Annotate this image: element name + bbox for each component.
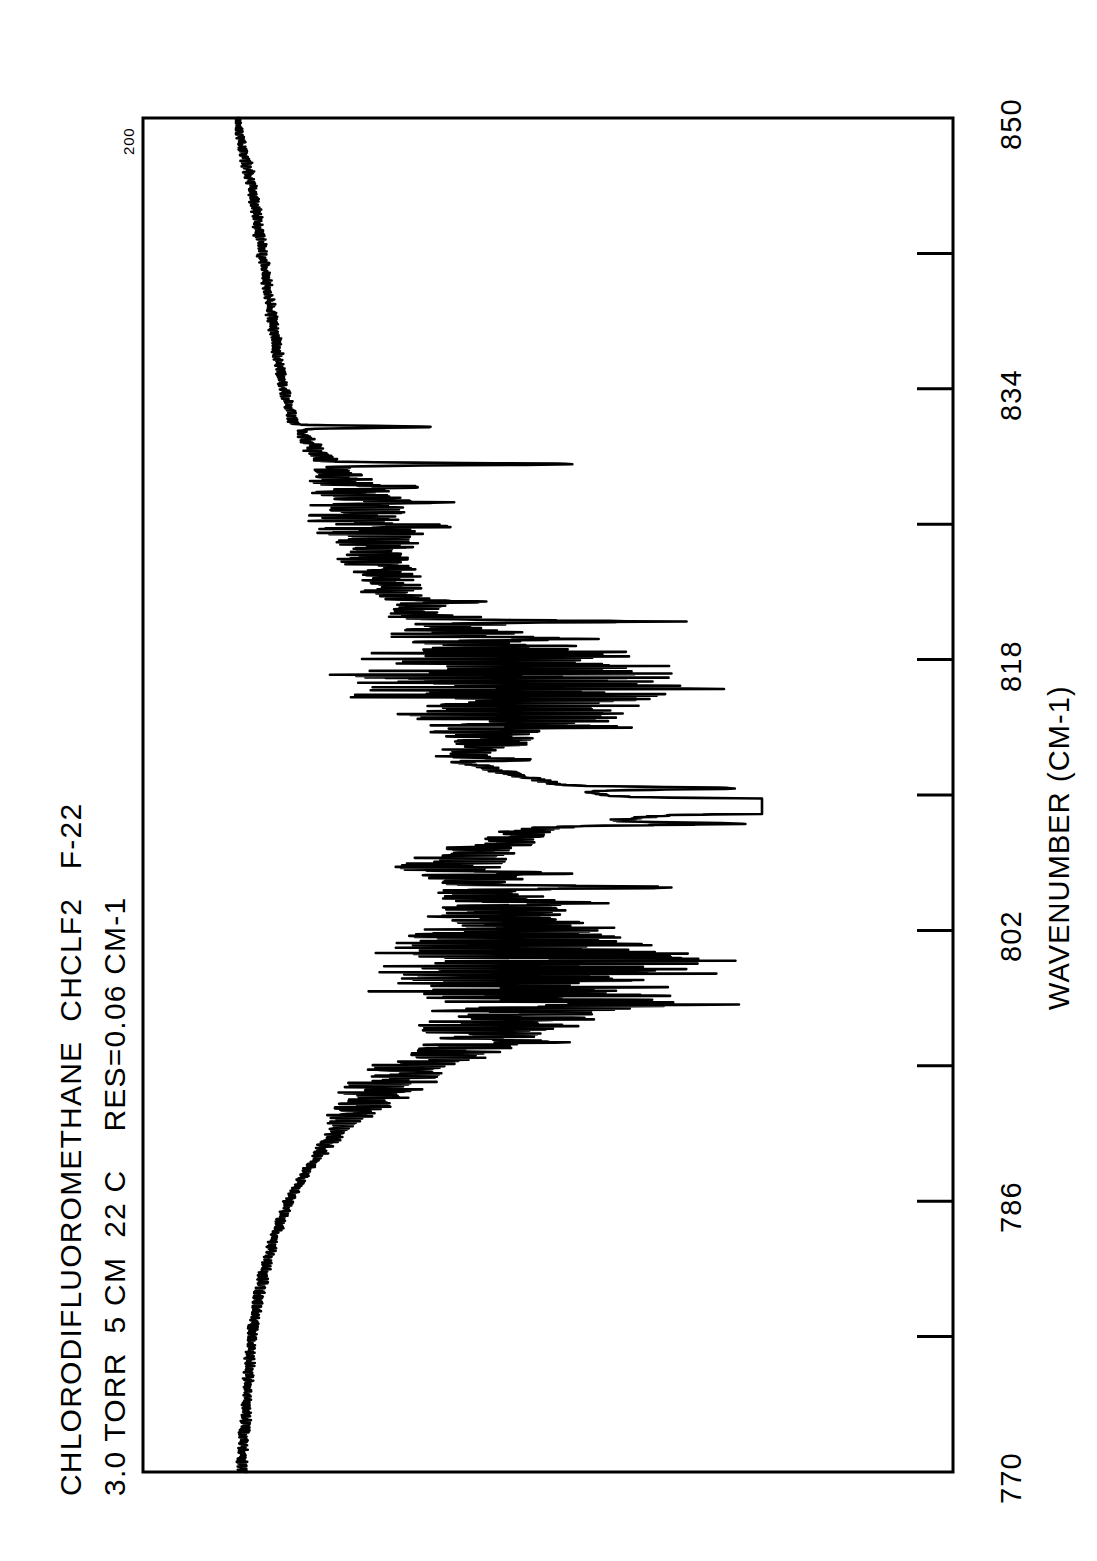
spectrum-trace bbox=[236, 118, 762, 1472]
spectrum-plot-area bbox=[0, 0, 1097, 1561]
axis-tick-marks bbox=[917, 253, 953, 1336]
spectrum-page: CHLORODIFLUOROMETHANE CHCLF2 F-22 3.0 TO… bbox=[0, 0, 1097, 1561]
